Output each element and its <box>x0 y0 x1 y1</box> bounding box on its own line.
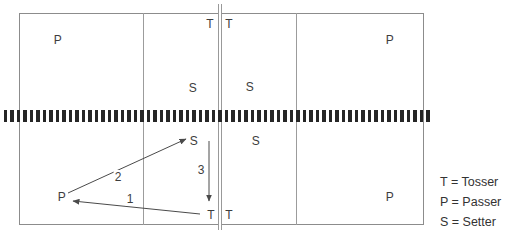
position-label-tosser-bottom-left-of-center: T <box>207 208 215 222</box>
position-label-passer-back-top-left: P <box>54 33 62 47</box>
position-label-passer-bottom-left: P <box>58 190 66 204</box>
legend: T = Tosser P = Passer S = Setter <box>440 172 501 232</box>
position-label-passer-bottom-right: P <box>386 190 394 204</box>
position-label-passer-back-top-right: P <box>386 33 394 47</box>
position-label-setter-bottom-left-court: S <box>190 134 198 148</box>
arrow-number-3: 3 <box>197 163 206 177</box>
position-label-setter-top-left-court: S <box>189 81 197 95</box>
arrow-number-1: 1 <box>126 192 135 206</box>
net-line <box>4 110 430 122</box>
legend-item-setter: S = Setter <box>440 212 501 232</box>
court-diagram: T = Tosser P = Passer S = Setter PTTSSPS… <box>0 0 507 241</box>
position-label-tosser-bottom-right-of-center: T <box>225 208 233 222</box>
position-label-tosser-top-left-of-center: T <box>206 17 214 31</box>
position-label-setter-top-right-court: S <box>246 80 254 94</box>
position-label-setter-bottom-right-court: S <box>252 134 260 148</box>
position-label-tosser-top-right-of-center: T <box>225 17 233 31</box>
legend-item-tosser: T = Tosser <box>440 172 501 192</box>
arrow-number-2: 2 <box>114 170 123 184</box>
legend-item-passer: P = Passer <box>440 192 501 212</box>
